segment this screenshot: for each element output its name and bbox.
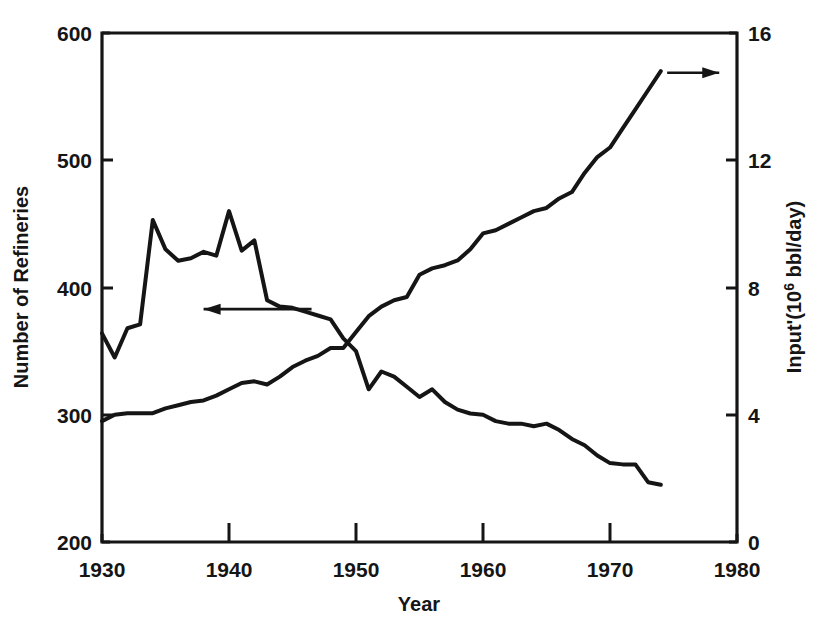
x-tick-label-1970: 1970 xyxy=(587,558,634,581)
plot-frame xyxy=(102,33,737,542)
right-tick-label-12: 12 xyxy=(748,149,771,172)
annotation-arrow-right xyxy=(667,67,719,78)
right-tick-label-16: 16 xyxy=(748,22,771,45)
x-axis-ticks xyxy=(102,523,737,542)
x-tick-label-1950: 1950 xyxy=(333,558,380,581)
x-tick-label-1980: 1980 xyxy=(714,558,761,581)
left-tick-label-600: 600 xyxy=(57,22,92,45)
data-series-group xyxy=(102,71,661,485)
right-tick-label-4: 4 xyxy=(748,404,760,427)
right-arrow-head xyxy=(702,67,719,78)
series-line-number-of-refineries xyxy=(102,211,661,485)
series-line-input xyxy=(102,71,661,421)
chart-figure: 600 500 400 300 200 16 12 8 4 0 1930 194… xyxy=(0,0,829,622)
secondary-y-axis-title: Input'(106 bbl/day) xyxy=(781,201,805,374)
secondary-y-axis-title-prefix: Input'(10 xyxy=(783,291,805,374)
right-axis-tick-labels: 16 12 8 4 0 xyxy=(748,22,771,554)
annotation-arrow-left xyxy=(204,304,312,315)
left-tick-label-500: 500 xyxy=(57,149,92,172)
left-axis-tick-labels: 600 500 400 300 200 xyxy=(57,22,92,554)
y-axis-title: Number of Refineries xyxy=(10,186,32,388)
left-tick-label-400: 400 xyxy=(57,277,92,300)
right-tick-label-8: 8 xyxy=(748,277,760,300)
secondary-y-axis-title-exponent: 6 xyxy=(781,283,797,291)
right-axis-ticks xyxy=(726,33,737,542)
x-tick-label-1940: 1940 xyxy=(206,558,253,581)
left-tick-label-200: 200 xyxy=(57,531,92,554)
x-axis-title: Year xyxy=(398,593,440,615)
refineries-and-input-line-chart: 600 500 400 300 200 16 12 8 4 0 1930 194… xyxy=(0,0,829,622)
left-axis-ticks xyxy=(102,33,113,542)
secondary-y-axis-title-suffix: bbl/day) xyxy=(783,201,805,283)
x-tick-label-1930: 1930 xyxy=(79,558,126,581)
right-tick-label-0: 0 xyxy=(748,531,760,554)
x-tick-label-1960: 1960 xyxy=(460,558,507,581)
left-arrow-head xyxy=(204,304,221,315)
x-axis-tick-labels: 1930 1940 1950 1960 1970 1980 xyxy=(79,558,761,581)
left-tick-label-300: 300 xyxy=(57,404,92,427)
